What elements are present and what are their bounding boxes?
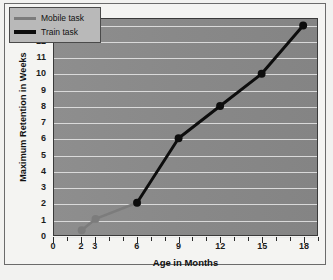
legend-item-label: Train task bbox=[41, 28, 78, 37]
plot-area bbox=[53, 18, 318, 236]
y-tick-label: 7 bbox=[41, 118, 46, 127]
x-tick-label: 0 bbox=[50, 242, 55, 251]
y-tick-label: 2 bbox=[41, 199, 46, 208]
x-tick-minor bbox=[123, 237, 124, 241]
x-tick-minor bbox=[248, 237, 249, 241]
x-tick-minor bbox=[192, 237, 193, 241]
data-point-marker bbox=[78, 226, 86, 234]
legend-item: Train task bbox=[14, 25, 96, 39]
legend-item-label: Mobile task bbox=[41, 14, 84, 23]
legend-line-swatch bbox=[14, 30, 36, 34]
data-point-marker bbox=[92, 215, 100, 223]
x-tick-label: 15 bbox=[257, 242, 267, 251]
x-tick-minor bbox=[151, 237, 152, 241]
x-tick-minor bbox=[109, 237, 110, 241]
legend-item: Mobile task bbox=[14, 11, 96, 25]
y-tick-label: 5 bbox=[41, 150, 46, 159]
x-axis-tick-labels: 02369121518 bbox=[53, 242, 318, 256]
legend-line-swatch bbox=[14, 17, 36, 20]
x-tick-label: 3 bbox=[92, 242, 97, 251]
y-tick-label: 8 bbox=[41, 101, 46, 110]
x-tick-label: 9 bbox=[176, 242, 181, 251]
x-tick-minor bbox=[276, 237, 277, 241]
series-layer bbox=[54, 19, 317, 235]
y-tick-label: 3 bbox=[41, 183, 46, 192]
y-tick-label: 0 bbox=[41, 232, 46, 241]
data-point-marker bbox=[299, 21, 307, 29]
data-point-marker bbox=[258, 70, 266, 78]
y-tick-label: 6 bbox=[41, 134, 46, 143]
series-line bbox=[82, 203, 137, 230]
chart-legend: Mobile taskTrain task bbox=[9, 7, 101, 43]
series-line bbox=[137, 25, 303, 202]
figure-frame: Maximum Retention in Weeks 0123456789101… bbox=[4, 3, 326, 265]
y-tick-label: 10 bbox=[36, 69, 46, 78]
x-tick-minor bbox=[290, 237, 291, 241]
y-axis-tick-labels: 012345678910111213 bbox=[5, 18, 50, 236]
x-tick-minor bbox=[206, 237, 207, 241]
y-tick-label: 4 bbox=[41, 166, 46, 175]
x-tick-minor bbox=[234, 237, 235, 241]
x-tick-minor bbox=[67, 237, 68, 241]
x-tick-label: 6 bbox=[134, 242, 139, 251]
x-tick-minor bbox=[165, 237, 166, 241]
x-tick-minor bbox=[318, 237, 319, 241]
y-tick-label: 11 bbox=[36, 53, 46, 62]
x-axis-title: Age in Months bbox=[53, 257, 318, 268]
x-tick-label: 12 bbox=[215, 242, 225, 251]
data-point-marker bbox=[133, 199, 141, 207]
data-point-marker bbox=[175, 134, 183, 142]
x-tick-label: 18 bbox=[299, 242, 309, 251]
y-tick-label: 1 bbox=[41, 215, 46, 224]
chart-figure: Maximum Retention in Weeks 0123456789101… bbox=[0, 0, 333, 280]
x-tick-label: 2 bbox=[78, 242, 83, 251]
y-tick-label: 9 bbox=[41, 85, 46, 94]
data-point-marker bbox=[216, 102, 224, 110]
